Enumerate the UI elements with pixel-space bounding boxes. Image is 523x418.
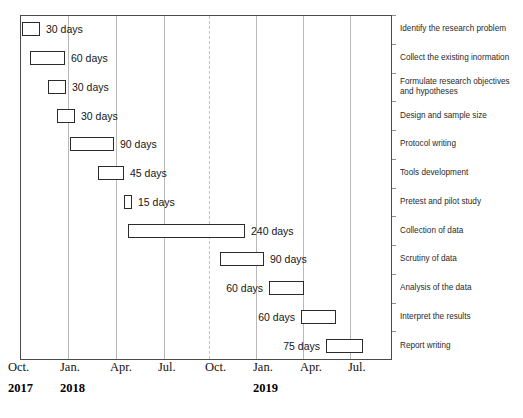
gantt-bar[interactable]	[70, 137, 114, 151]
x-axis-month-label: Oct.	[205, 360, 226, 375]
task-list-item[interactable]: Analysis of the data	[392, 274, 523, 303]
task-list-item[interactable]: Collection of data	[392, 216, 523, 245]
gantt-bar[interactable]	[22, 22, 40, 36]
gantt-bar[interactable]	[48, 80, 66, 94]
gantt-bar-duration-label: 90 days	[120, 139, 157, 150]
gantt-row: 240 days	[20, 216, 392, 245]
gantt-row: 90 days	[20, 130, 392, 159]
task-list-item[interactable]: Formulate research objectives and hypoth…	[392, 73, 523, 102]
task-list-item-label: Protocol writing	[392, 139, 456, 149]
gantt-bar-duration-label: 240 days	[251, 225, 294, 236]
gantt-bar[interactable]	[220, 252, 264, 266]
gantt-row: 30 days	[20, 15, 392, 44]
row-tick-mark	[392, 188, 396, 189]
row-tick-mark	[392, 15, 396, 16]
row-tick-mark	[392, 101, 396, 102]
gantt-row: 60 days	[20, 303, 392, 332]
gantt-bar-duration-label: 60 days	[226, 283, 263, 294]
task-list-item-label: Identify the research problem	[392, 24, 506, 34]
row-tick-mark	[392, 331, 396, 332]
x-axis-month-label: Jan.	[253, 360, 273, 375]
gantt-row: 45 days	[20, 159, 392, 188]
gantt-rows: 30 days60 days30 days30 days90 days45 da…	[20, 15, 392, 360]
gantt-bar[interactable]	[301, 310, 336, 324]
row-tick-mark	[392, 159, 396, 160]
task-list-item-label: Formulate research objectives and hypoth…	[392, 77, 510, 97]
task-list-item-label: Scrutiny of data	[392, 254, 457, 264]
task-list-item-label: Report writing	[392, 341, 451, 351]
task-list-item-label: Collect the existing inormation	[392, 53, 509, 63]
task-list-item-label: Analysis of the data	[392, 283, 471, 293]
gantt-chart: 30 days60 days30 days30 days90 days45 da…	[0, 0, 523, 418]
gantt-row: 30 days	[20, 101, 392, 130]
task-list-item[interactable]: Design and sample size	[392, 101, 523, 130]
gantt-bar-duration-label: 90 days	[270, 254, 307, 265]
task-list-item[interactable]: Protocol writing	[392, 130, 523, 159]
x-axis-month-label: Jan.	[60, 360, 80, 375]
row-tick-mark	[392, 44, 396, 45]
task-list-item[interactable]: Collect the existing inormation	[392, 44, 523, 73]
x-axis: Oct.Jan.Apr.Jul.Oct.Jan.Apr.Jul.20172018…	[0, 360, 523, 418]
gantt-bar[interactable]	[98, 166, 124, 180]
task-label-list: Identify the research problemCollect the…	[392, 15, 523, 360]
task-list-item-label: Design and sample size	[392, 111, 487, 121]
x-axis-month-label: Apr.	[110, 360, 132, 375]
gantt-row: 15 days	[20, 188, 392, 217]
row-tick-mark	[392, 216, 396, 217]
task-list-item-label: Pretest and pilot study	[392, 197, 481, 207]
row-tick-mark	[392, 245, 396, 246]
task-list-item[interactable]: Scrutiny of data	[392, 245, 523, 274]
task-list-item[interactable]: Tools development	[392, 159, 523, 188]
task-list-item-label: Collection of data	[392, 226, 463, 236]
gantt-bar[interactable]	[57, 109, 75, 123]
gantt-row: 60 days	[20, 44, 392, 73]
gantt-bar-duration-label: 30 days	[81, 110, 118, 121]
gantt-bar[interactable]	[326, 339, 363, 353]
gantt-bar[interactable]	[128, 224, 245, 238]
x-axis-year-label: 2018	[60, 381, 85, 396]
gantt-bar-duration-label: 60 days	[258, 312, 295, 323]
task-list-item[interactable]: Identify the research problem	[392, 15, 523, 44]
x-axis-month-label: Oct.	[8, 360, 29, 375]
gantt-bar-duration-label: 75 days	[283, 340, 320, 351]
gantt-row: 30 days	[20, 73, 392, 102]
gantt-bar-duration-label: 15 days	[138, 197, 175, 208]
gantt-row: 60 days	[20, 274, 392, 303]
gantt-row: 90 days	[20, 245, 392, 274]
task-list-item-label: Interpret the results	[392, 312, 471, 322]
x-axis-year-label: 2017	[8, 381, 33, 396]
gantt-bar[interactable]	[30, 51, 65, 65]
task-list-item-label: Tools development	[392, 168, 468, 178]
gantt-bar-duration-label: 45 days	[130, 168, 167, 179]
task-list-item[interactable]: Pretest and pilot study	[392, 188, 523, 217]
gantt-bar-duration-label: 60 days	[71, 53, 108, 64]
task-list-item[interactable]: Report writing	[392, 331, 523, 360]
row-tick-mark	[392, 303, 396, 304]
gantt-bar[interactable]	[124, 195, 132, 209]
gantt-bar-duration-label: 30 days	[46, 24, 83, 35]
row-tick-mark	[392, 130, 396, 131]
x-axis-month-label: Jul.	[158, 360, 176, 375]
row-tick-mark	[392, 274, 396, 275]
row-tick-mark	[392, 73, 396, 74]
gantt-row: 75 days	[20, 331, 392, 360]
x-axis-month-label: Jul.	[348, 360, 366, 375]
x-axis-month-label: Apr.	[300, 360, 322, 375]
x-axis-year-label: 2019	[253, 381, 278, 396]
gantt-bar-duration-label: 30 days	[72, 82, 109, 93]
gantt-bar[interactable]	[269, 281, 304, 295]
task-list-item[interactable]: Interpret the results	[392, 303, 523, 332]
